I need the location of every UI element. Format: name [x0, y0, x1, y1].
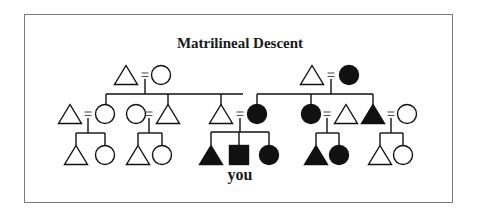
triangle-male-icon: [210, 105, 233, 124]
triangle-male-icon: [65, 146, 88, 165]
diagram-title: Matrilineal Descent: [177, 35, 303, 51]
filled-circle-female-icon: [330, 146, 349, 165]
filled-triangle-male-icon: [362, 105, 385, 124]
filled-square-ego-icon: [230, 146, 249, 165]
triangle-male-icon: [335, 105, 358, 124]
circle-female-icon: [96, 105, 115, 124]
circle-female-icon: [153, 146, 172, 165]
marriage-equals-icon: [142, 73, 149, 77]
kinship-diagram: Matrilineal Descent you: [0, 0, 479, 219]
triangle-male-icon: [127, 146, 150, 165]
triangle-male-icon: [157, 105, 180, 124]
marriage-equals-icon: [146, 112, 153, 116]
triangle-male-icon: [115, 66, 138, 85]
filled-triangle-male-icon: [305, 146, 328, 165]
circle-female-icon: [398, 105, 417, 124]
marriage-equals-icon: [85, 112, 92, 116]
marriage-equals-icon: [388, 112, 395, 116]
filled-circle-female-icon: [340, 66, 359, 85]
circle-female-icon: [394, 146, 413, 165]
filled-circle-female-icon: [260, 146, 279, 165]
filled-circle-female-icon: [302, 105, 321, 124]
triangle-male-icon: [369, 146, 392, 165]
circle-female-icon: [127, 105, 146, 124]
marriage-equals-icon: [324, 112, 331, 116]
filled-circle-female-icon: [248, 105, 267, 124]
triangle-male-icon: [59, 105, 82, 124]
circle-female-icon: [96, 146, 115, 165]
marriage-equals-icon: [328, 73, 335, 77]
circle-female-icon: [152, 66, 171, 85]
triangle-male-icon: [301, 66, 324, 85]
filled-triangle-male-icon: [200, 146, 223, 165]
marriage-equals-icon: [237, 112, 244, 116]
ego-label: you: [228, 166, 253, 184]
